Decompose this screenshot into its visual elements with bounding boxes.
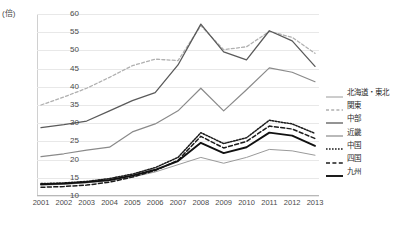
y-axis-tick-label: 60 <box>39 10 79 18</box>
plot-area <box>37 14 319 196</box>
legend-item: 四国 <box>326 152 403 165</box>
legend-label: 中部 <box>347 114 361 123</box>
x-axis-tick-label: 2013 <box>300 199 330 207</box>
legend-swatch <box>326 114 343 124</box>
y-axis-tick-label: 30 <box>39 119 79 127</box>
legend-label: 九州 <box>347 167 361 176</box>
y-axis-unit-label: (倍) <box>2 10 15 18</box>
gridline <box>37 196 319 197</box>
series-line <box>41 120 315 183</box>
legend-swatch <box>326 127 343 137</box>
legend-label: 近畿 <box>347 128 361 137</box>
y-axis-tick-label: 45 <box>39 65 79 73</box>
series-line <box>41 24 315 127</box>
y-axis-tick-label: 40 <box>39 83 79 91</box>
series-lines <box>37 14 319 196</box>
series-line <box>41 133 315 185</box>
legend-label: 四国 <box>347 154 361 163</box>
legend-swatch <box>326 140 343 150</box>
y-axis-tick-label: 35 <box>39 101 79 109</box>
legend-item: 中国 <box>326 139 403 152</box>
legend-item: 中部 <box>326 112 403 125</box>
legend-item: 北海道・東北 <box>326 86 403 99</box>
legend-swatch <box>326 167 343 177</box>
legend-swatch <box>326 154 343 164</box>
series-line <box>41 68 315 157</box>
y-axis-tick-label: 15 <box>39 174 79 182</box>
y-axis-tick-label: 50 <box>39 46 79 54</box>
legend-label: 北海道・東北 <box>347 88 389 97</box>
legend-label: 関東 <box>347 101 361 110</box>
series-line <box>41 149 315 185</box>
y-axis-tick-label: 25 <box>39 137 79 145</box>
legend-label: 中国 <box>347 141 361 150</box>
y-axis-tick-label: 20 <box>39 156 79 164</box>
legend: 北海道・東北関東中部近畿中国四国九州 <box>326 86 403 178</box>
legend-item: 九州 <box>326 165 403 178</box>
legend-swatch <box>326 101 343 111</box>
legend-swatch <box>326 88 343 98</box>
legend-item: 関東 <box>326 99 403 112</box>
line-chart: (倍) 北海道・東北関東中部近畿中国四国九州 60555045403530252… <box>0 0 403 225</box>
legend-item: 近畿 <box>326 126 403 139</box>
y-axis-tick-label: 55 <box>39 28 79 36</box>
